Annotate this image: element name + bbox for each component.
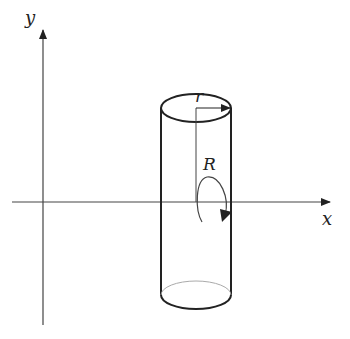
radius-label: r	[195, 86, 204, 106]
y-axis-label: y	[24, 7, 36, 28]
x-axis-label: x	[322, 208, 332, 229]
cylinder-bottom-front-edge	[161, 295, 231, 309]
cylinder-diagram: y x r R	[0, 0, 350, 339]
rotation-label: R	[202, 154, 216, 174]
cylinder-bottom-hidden-edge	[161, 281, 231, 295]
